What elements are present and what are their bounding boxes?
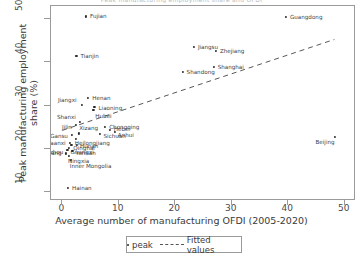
- plot-area: FujianGuangdongJiangsuZhejiangTianjinSha…: [50, 5, 355, 200]
- legend: peak Fitted values: [126, 236, 242, 253]
- legend-item-fitted: Fitted values: [160, 235, 241, 255]
- data-point: [104, 126, 106, 128]
- data-point-label: Liaoning: [98, 105, 122, 111]
- data-point-label: Hubei: [95, 113, 111, 119]
- data-point-label: Hainan: [72, 185, 92, 191]
- data-point: [71, 134, 73, 136]
- x-tick-mark: [118, 200, 119, 205]
- x-tick-mark: [61, 200, 62, 205]
- data-point-label: Guangdong: [290, 14, 322, 20]
- scatter-plot-figure: Peak manufacturing employment share and …: [0, 0, 363, 263]
- data-point: [193, 46, 195, 48]
- data-point-label: Shandong: [187, 69, 215, 75]
- data-point: [80, 104, 82, 106]
- data-point-label: Jiangxi: [58, 97, 77, 103]
- data-point: [92, 109, 94, 111]
- y-axis-label: Peak manufacturing employment share (%): [17, 13, 39, 193]
- data-point-label: Fujian: [90, 13, 107, 19]
- data-point: [98, 133, 100, 135]
- data-point-label: Beijing: [316, 139, 335, 145]
- data-point: [285, 16, 287, 18]
- legend-label-peak: peak: [132, 240, 153, 250]
- point-marker-icon: [127, 244, 129, 246]
- data-point: [109, 129, 111, 131]
- data-point-label: Tianjin: [80, 53, 98, 59]
- data-point-label: Gansu: [50, 133, 68, 139]
- legend-item-peak: peak: [127, 240, 153, 250]
- data-point-label: Zhejiang: [220, 48, 244, 54]
- dashed-line-icon: [160, 244, 184, 245]
- data-point-label: Shaanxi: [50, 140, 66, 146]
- data-point: [213, 66, 215, 68]
- data-point: [66, 149, 68, 151]
- data-point: [75, 124, 77, 126]
- data-point: [70, 144, 72, 146]
- data-point-label: Hebei: [114, 126, 130, 132]
- x-axis-label: Average number of manufacturing OFDI (20…: [0, 215, 363, 226]
- data-point-label: Shanxi: [57, 114, 76, 120]
- data-point: [87, 97, 89, 99]
- data-point-label: Henan: [92, 95, 110, 101]
- x-tick-mark: [344, 200, 345, 205]
- data-point-label: Inner Mongolia: [70, 163, 112, 169]
- data-point: [65, 152, 67, 154]
- data-point: [78, 132, 80, 134]
- data-point: [67, 186, 69, 188]
- data-point: [182, 71, 184, 73]
- figure-title: Peak manufacturing employment share and …: [0, 0, 363, 3]
- data-point: [79, 121, 81, 123]
- x-tick-mark: [231, 200, 232, 205]
- data-point: [333, 136, 335, 138]
- data-point-label: Xinjiang: [50, 150, 62, 156]
- data-point-label: Sichuan: [104, 133, 126, 139]
- data-point: [215, 50, 217, 52]
- data-point: [85, 15, 87, 17]
- data-point: [68, 155, 70, 157]
- x-tick-mark: [174, 200, 175, 205]
- x-tick-mark: [287, 200, 288, 205]
- data-point: [75, 55, 77, 57]
- data-point-label: Shanghai: [218, 64, 244, 70]
- data-point-label: Xizang: [79, 125, 98, 131]
- data-point-label: Yunnan: [75, 150, 95, 156]
- fitted-values-line: [51, 6, 354, 199]
- data-point-label: Jilin: [62, 124, 72, 130]
- data-point: [93, 105, 95, 107]
- legend-label-fitted: Fitted values: [187, 235, 241, 255]
